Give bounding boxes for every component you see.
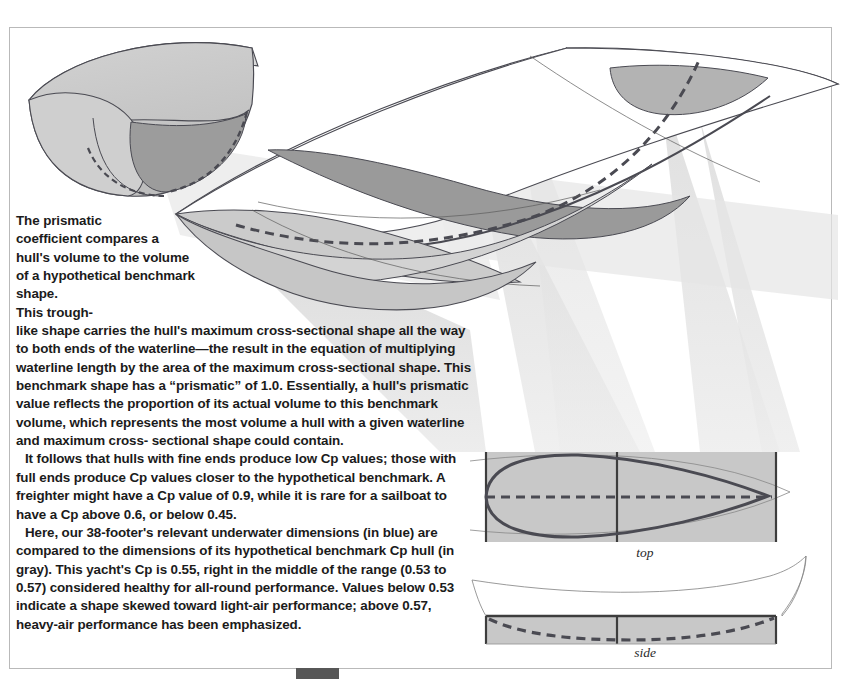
paragraph-3: Here, our 38-footer's relevant underwate… bbox=[16, 524, 471, 634]
profile-sheer-outline bbox=[472, 556, 806, 616]
page-root: The prismatic coefficient compares a hul… bbox=[0, 0, 858, 679]
profile-view-figure bbox=[472, 556, 806, 644]
caption-side-view: side bbox=[605, 645, 685, 661]
caption-top-view: top bbox=[605, 545, 685, 561]
page-footer-tab bbox=[296, 668, 339, 679]
paragraph-1: The prismatic coefficient compares a hul… bbox=[16, 212, 471, 450]
paragraph-2: It follows that hulls with fine ends pro… bbox=[16, 450, 471, 523]
plan-view-figure bbox=[470, 452, 790, 542]
article-body: The prismatic coefficient compares a hul… bbox=[16, 212, 471, 634]
profile-transom bbox=[472, 580, 486, 616]
